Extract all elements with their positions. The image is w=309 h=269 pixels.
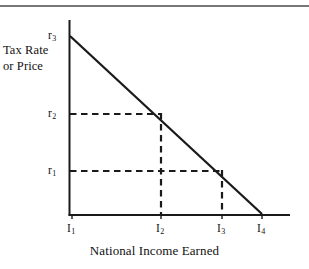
- y-tick-label-r3-sub: 3: [52, 34, 56, 43]
- x-tick-label-I3-sub: 3: [221, 227, 225, 236]
- figure-root: Tax Rate or Price National Income Earned…: [0, 0, 309, 269]
- y-tick-label-r3: r3: [48, 29, 56, 41]
- y-tick-label-r1-sub: 1: [52, 169, 56, 178]
- y-tick-label-r1: r1: [48, 164, 56, 176]
- x-tick-label-I3: I3: [217, 222, 225, 234]
- y-axis-title-line-2: or Price: [3, 58, 48, 74]
- x-tick-label-I4: I4: [257, 222, 265, 234]
- demand-schedule-line: [70, 36, 262, 214]
- x-tick-label-I2: I2: [156, 222, 164, 234]
- x-tick-label-I1: I1: [67, 222, 75, 234]
- x-axis-title: National Income Earned: [0, 243, 309, 258]
- y-axis-title-line-1: Tax Rate: [3, 42, 48, 58]
- x-tick-label-I2-sub: 2: [160, 227, 164, 236]
- x-tick-label-I1-sub: 1: [71, 227, 75, 236]
- y-tick-label-r2-sub: 2: [52, 112, 56, 121]
- x-tick-label-I4-sub: 4: [261, 227, 265, 236]
- y-axis-title: Tax Rate or Price: [3, 42, 48, 74]
- y-tick-label-r2: r2: [48, 107, 56, 119]
